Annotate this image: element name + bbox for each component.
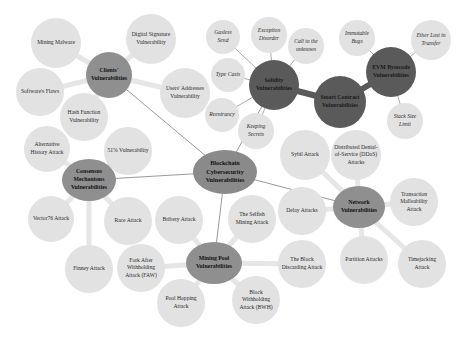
hub-consensus: Consensus Mechanisms Vulnerabilities xyxy=(62,159,116,201)
node-label: Digital Signature Vulnerability xyxy=(129,31,173,46)
hub-label: Smart Contract Vulnerabilities xyxy=(317,94,363,110)
node-label: Timejacking Attack xyxy=(401,256,443,271)
node-label: 51% Vulnerability xyxy=(107,147,148,155)
node-stack-size: Stack Size Limit xyxy=(387,103,423,139)
node-exception-disorder: Exception Disorder xyxy=(251,17,287,53)
node-label: Pool Hopping Attack xyxy=(160,295,202,310)
node-label: Vector76 Attack xyxy=(33,215,69,223)
node-immutable-bugs: Immutable Bugs xyxy=(339,20,375,56)
hub-label: Consensus Mechanisms Vulnerabilities xyxy=(65,168,113,191)
hub-mining-pool: Mining Pool Vulnerabilities xyxy=(186,242,242,284)
hub-label: Mining Pool Vulnerabilities xyxy=(189,255,239,271)
node-label: Mining Malware xyxy=(37,39,75,47)
node-type-casts: Type Casts xyxy=(211,58,245,92)
node-race-attack: Race Attack xyxy=(104,197,152,245)
node-call-unknown: Call to the unknown xyxy=(288,28,324,64)
node-delay-attacks: Delay Attacks xyxy=(278,187,326,235)
mind-map-diagram: Mining Malware Digital Signature Vulnera… xyxy=(0,0,462,344)
hub-label: Solidity Vulnerabilities xyxy=(252,77,296,93)
node-label: Gasless Send xyxy=(209,29,237,44)
node-label: Hash Function Vulnerability xyxy=(63,109,105,124)
node-ddos: Distributed Denial-of-Service (DDoS) Att… xyxy=(331,130,381,180)
hub-network: Network Vulnerabilities xyxy=(333,186,385,228)
node-alternative-history: Alternative History Attack xyxy=(24,126,70,172)
hub-clients: Clients' Vulnerabilities xyxy=(86,52,132,98)
node-reentrancy: Reentrancy xyxy=(205,98,239,132)
node-label: Ether Lost in Transfer xyxy=(414,32,448,47)
node-label: The Selfish Mining Attack xyxy=(231,211,273,226)
node-label: Transaction Malleability Attack xyxy=(393,191,435,214)
node-digital-signature: Digital Signature Vulnerability xyxy=(126,14,176,64)
node-hash-function: Hash Function Vulnerability xyxy=(60,93,108,141)
hub-solidity: Solidity Vulnerabilities xyxy=(249,60,299,110)
node-bribery-attack: Bribery Attack xyxy=(155,196,203,244)
node-label: Users' Addresses Vulnerability xyxy=(163,85,207,100)
node-block-discarding: The Block Discarding Attack xyxy=(278,240,326,288)
node-mining-malware: Mining Malware xyxy=(31,18,81,68)
node-label: Bribery Attack xyxy=(162,216,195,224)
hub-label: Clients' Vulnerabilities xyxy=(89,67,129,83)
node-label: Immutable Bugs xyxy=(342,30,372,45)
node-label: Keeping Secrets xyxy=(241,123,271,138)
node-label: Stack Size Limit xyxy=(390,113,420,128)
node-label: Finney Attack xyxy=(73,265,105,273)
node-label: Call to the unknown xyxy=(291,38,321,53)
hub-evm: EVM Bytecode Vulnerabilities xyxy=(366,47,416,97)
node-label: Alternative History Attack xyxy=(27,141,67,156)
node-finney-attack: Finney Attack xyxy=(65,245,113,293)
node-users-addresses: Users' Addresses Vulnerability xyxy=(160,68,210,118)
node-ether-lost: Ether Lost in Transfer xyxy=(411,20,451,60)
node-sybil-attack: Sybil Attack xyxy=(280,130,330,180)
node-label: Partition Attacks xyxy=(345,256,382,264)
node-time-jacking: Timejacking Attack xyxy=(398,240,446,288)
node-transaction-malleability: Transaction Malleability Attack xyxy=(390,178,438,226)
hub-label: EVM Bytecode Vulnerabilities xyxy=(369,64,413,80)
node-pool-hopping: Pool Hopping Attack xyxy=(157,279,205,327)
node-label: Software's Flaws xyxy=(21,88,59,96)
node-partition-attacks: Partition Attacks xyxy=(340,236,388,284)
node-label: Block Withholding Attack (BWH) xyxy=(235,289,277,312)
node-label: Sybil Attack xyxy=(291,151,319,159)
node-selfish-mining: The Selfish Mining Attack xyxy=(228,195,276,243)
node-label: Exception Disorder xyxy=(254,27,284,42)
root-label: Blockchain Cybersecurity Vulnerabilities xyxy=(196,159,254,184)
node-gasless-send: Gasless Send xyxy=(206,20,240,54)
node-keeping-secrets: Keeping Secrets xyxy=(238,113,274,149)
hub-label: Network Vulnerabilities xyxy=(336,199,382,215)
node-label: Race Attack xyxy=(114,217,141,225)
node-label: Delay Attacks xyxy=(286,207,318,215)
hub-smart-contract: Smart Contract Vulnerabilities xyxy=(314,76,366,128)
node-label: Type Casts xyxy=(216,71,240,79)
node-faw: Fork After Withholding Attack (FAW) xyxy=(117,244,165,292)
node-bwh: Block Withholding Attack (BWH) xyxy=(232,276,280,324)
node-label: The Block Discarding Attack xyxy=(281,256,323,271)
node-vector76: Vector76 Attack xyxy=(28,196,74,242)
node-software-flaws: Software's Flaws xyxy=(16,68,64,116)
root-node: Blockchain Cybersecurity Vulnerabilities xyxy=(193,150,257,194)
node-label: Fork After Withholding Attack (FAW) xyxy=(120,257,162,280)
node-label: Reentrancy xyxy=(209,111,234,119)
node-label: Distributed Denial-of-Service (DDoS) Att… xyxy=(334,144,378,167)
